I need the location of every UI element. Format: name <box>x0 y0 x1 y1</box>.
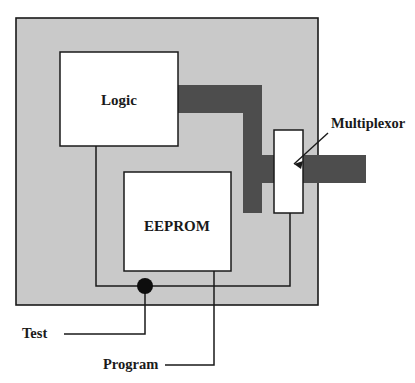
block-multiplexor[interactable] <box>274 130 303 213</box>
block-eeprom-label: EEPROM <box>144 218 210 234</box>
block-logic-label: Logic <box>101 92 137 108</box>
program-callout-label: Program <box>103 356 158 372</box>
multiplexor-callout-label: Multiplexor <box>331 115 406 131</box>
block-diagram: Logic EEPROM Multiplexor Test Program <box>0 0 415 383</box>
test-callout-label: Test <box>22 325 47 341</box>
data-bus-output-arm <box>303 155 366 183</box>
test-junction-dot <box>137 278 153 294</box>
diagram-canvas: Logic EEPROM Multiplexor Test Program <box>0 0 415 383</box>
